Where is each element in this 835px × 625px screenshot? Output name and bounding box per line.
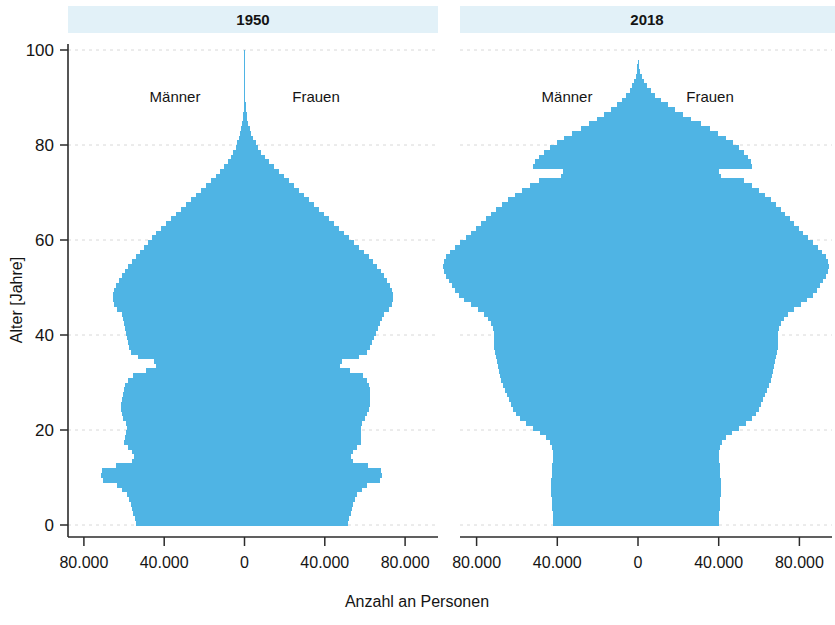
pyramid-bar-female [638, 463, 720, 468]
pyramid-bar-female [638, 93, 655, 98]
pyramid-bar-male [471, 231, 638, 236]
pyramid-bar-female [245, 216, 329, 221]
pyramid-bar-female [245, 307, 390, 312]
x-tick-label: 40.000 [694, 554, 743, 571]
pyramid-bar-male [502, 202, 638, 207]
pyramid-bar-female [245, 435, 361, 440]
y-tick-labels: 020406080100 [26, 41, 54, 535]
pyramid-bar-female [245, 107, 246, 112]
pyramid-bar-female [638, 402, 761, 407]
pyramid-bar-male [550, 145, 638, 150]
pyramid-bar-female [245, 373, 363, 378]
pyramid-bar-female [638, 207, 781, 212]
pyramid-bar-male [597, 117, 638, 122]
pyramid-bar-female [638, 425, 739, 430]
pyramid-bar-female [638, 387, 767, 392]
pyramid-bar-female [245, 273, 385, 278]
male-label-1950: Männer [150, 88, 201, 105]
pyramid-bar-male [546, 435, 638, 440]
pyramid-bar-female [245, 221, 334, 226]
pyramid-bar-female [638, 459, 719, 464]
pyramid-bar-male [242, 121, 244, 126]
pyramid-bar-female [245, 497, 355, 502]
pyramid-bar-male [186, 202, 244, 207]
pyramid-bar-female [638, 444, 720, 449]
pyramid-bar-female [638, 511, 719, 516]
pyramid-bar-female [638, 349, 777, 354]
pyramid-bar-female [638, 278, 823, 283]
pyramid-bar-female [638, 273, 826, 278]
pyramid-bar-female [245, 425, 361, 430]
pyramid-bar-female [638, 269, 828, 274]
pyramid-bar-female [638, 136, 726, 141]
pyramid-bar-female [245, 102, 246, 107]
pyramid-bar-male [239, 136, 244, 141]
pyramid-bar-male [171, 216, 244, 221]
pyramid-bar-male [121, 406, 244, 411]
pyramid-bar-female [245, 183, 294, 188]
pyramid-bar-female [245, 326, 378, 331]
pyramid-bar-female [638, 345, 778, 350]
pyramid-bar-male [128, 444, 244, 449]
pyramid-bar-male [114, 288, 244, 293]
pyramid-bar-male [505, 387, 638, 392]
pyramid-bar-female [638, 183, 752, 188]
pyramid-bar-male [122, 487, 244, 492]
pyramid-bar-female [245, 459, 353, 464]
pyramid-bar-male [244, 107, 245, 112]
pyramid-bar-male [507, 392, 638, 397]
pyramid-bar-female [245, 164, 274, 169]
pyramid-bar-male [140, 250, 244, 255]
pyramid-bar-male [589, 121, 638, 126]
pyramid-bar-male [233, 150, 244, 155]
pyramid-bar-male [224, 164, 244, 169]
pyramid-bar-female [638, 112, 683, 117]
pyramid-bar-female [638, 330, 778, 335]
pyramid-bar-female [638, 416, 752, 421]
pyramid-bar-female [638, 102, 668, 107]
pyramid-bar-male [630, 88, 638, 93]
pyramid-bar-female [245, 264, 377, 269]
pyramid-bar-male [128, 378, 244, 383]
pyramid-bar-male [132, 449, 244, 454]
pyramid-bar-female [245, 392, 370, 397]
pyramid-bar-male [129, 497, 244, 502]
pyramid-bar-female [245, 269, 382, 274]
pyramid-bar-male [128, 264, 244, 269]
pyramid-bar-male [563, 169, 638, 174]
pyramid-bar-female [245, 516, 349, 521]
y-tick-label: 100 [26, 41, 54, 60]
pyramid-bar-male [550, 440, 638, 445]
pyramid-bar-male [444, 259, 638, 264]
pyramid-bar-male [166, 221, 244, 226]
pyramid-bar-male [103, 478, 245, 483]
pyramid-bar-female [638, 473, 720, 478]
pyramid-bar-female [638, 520, 719, 525]
y-tick-label: 60 [35, 231, 54, 250]
pyramid-bar-female [245, 383, 369, 388]
pyramid-bar-male [499, 368, 638, 373]
pyramid-bar-female [638, 297, 807, 302]
pyramid-bar-male [128, 340, 244, 345]
pyramid-bar-female [245, 188, 299, 193]
pyramid-bar-female [638, 193, 765, 198]
pyramid-bar-female [638, 240, 813, 245]
pyramid-bar-male [494, 340, 638, 345]
pyramid-bar-female [638, 321, 781, 326]
pyramid-bar-female [245, 245, 359, 250]
pyramid-bar-male [127, 425, 244, 430]
pyramid-bar-female [638, 88, 651, 93]
pyramid-bar-male [201, 188, 244, 193]
pyramid-bar-male [496, 207, 638, 212]
pyramid-bar-male [459, 292, 638, 297]
pyramid-bar-male [452, 283, 638, 288]
pyramid-bar-female [245, 402, 370, 407]
pyramid-bar-male [114, 302, 244, 307]
pyramid-bar-male [196, 193, 244, 198]
x-tick-label: 80.000 [775, 554, 824, 571]
pyramid-bar-female [638, 340, 778, 345]
pyramid-bar-female [638, 288, 817, 293]
pyramid-bar-male [125, 269, 244, 274]
pyramid-bar-male [455, 245, 638, 250]
pyramid-bar-male [216, 174, 244, 179]
